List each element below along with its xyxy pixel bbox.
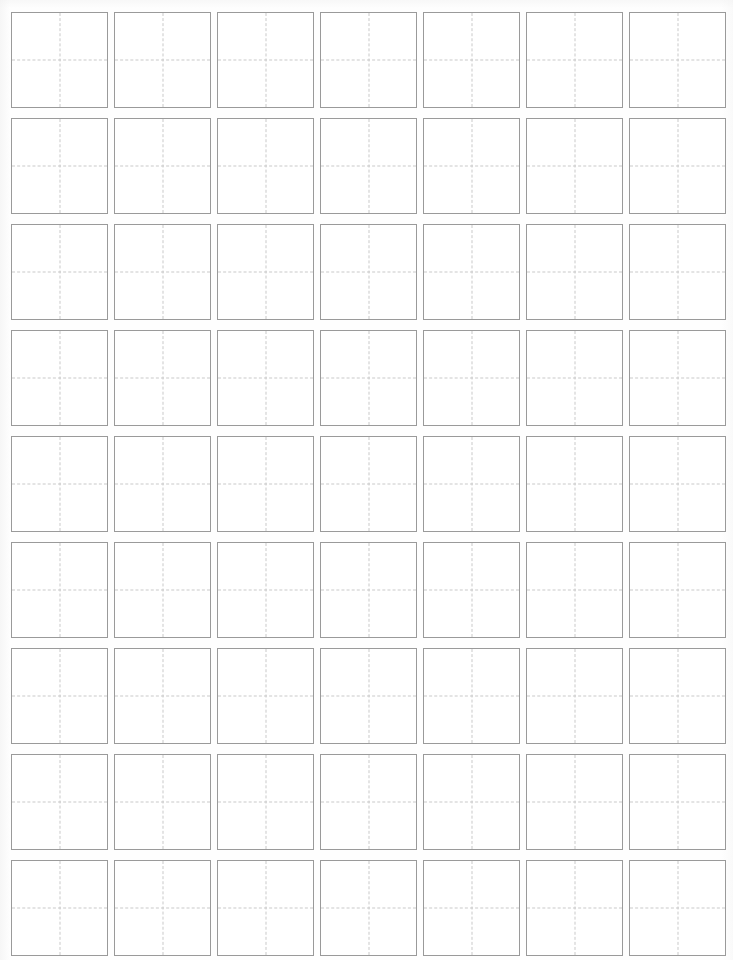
practice-cell[interactable]	[629, 542, 726, 638]
cell-character	[630, 119, 725, 213]
cell-character	[218, 331, 313, 425]
practice-cell[interactable]	[217, 330, 314, 426]
practice-cell[interactable]	[526, 118, 623, 214]
practice-cell[interactable]	[11, 436, 108, 532]
practice-cell[interactable]	[423, 860, 520, 956]
practice-cell[interactable]	[11, 330, 108, 426]
practice-cell[interactable]	[423, 542, 520, 638]
cell-character	[218, 437, 313, 531]
practice-cell[interactable]	[423, 12, 520, 108]
cell-character	[424, 13, 519, 107]
cell-character	[115, 755, 210, 849]
practice-cell[interactable]	[217, 12, 314, 108]
practice-cell[interactable]	[217, 860, 314, 956]
practice-cell[interactable]	[320, 118, 417, 214]
practice-cell[interactable]	[526, 542, 623, 638]
practice-cell[interactable]	[114, 118, 211, 214]
practice-cell[interactable]	[629, 330, 726, 426]
practice-cell[interactable]	[423, 224, 520, 320]
practice-cell[interactable]	[114, 754, 211, 850]
cell-character	[12, 331, 107, 425]
practice-cell[interactable]	[11, 118, 108, 214]
cell-character	[527, 225, 622, 319]
cell-character	[321, 543, 416, 637]
practice-cell[interactable]	[320, 648, 417, 744]
cell-character	[321, 119, 416, 213]
cell-character	[630, 861, 725, 955]
practice-cell[interactable]	[217, 436, 314, 532]
cell-character	[424, 119, 519, 213]
practice-cell[interactable]	[320, 436, 417, 532]
practice-cell[interactable]	[423, 330, 520, 426]
practice-cell[interactable]	[114, 542, 211, 638]
cell-character	[321, 331, 416, 425]
cell-character	[218, 225, 313, 319]
cell-character	[218, 119, 313, 213]
cell-character	[527, 437, 622, 531]
practice-cell[interactable]	[526, 224, 623, 320]
practice-cell[interactable]	[11, 648, 108, 744]
practice-cell[interactable]	[114, 12, 211, 108]
cell-character	[424, 649, 519, 743]
practice-cell[interactable]	[526, 860, 623, 956]
cell-character	[115, 649, 210, 743]
practice-cell[interactable]	[629, 12, 726, 108]
cell-character	[527, 543, 622, 637]
practice-cell[interactable]	[11, 224, 108, 320]
cell-character	[321, 437, 416, 531]
practice-cell[interactable]	[526, 436, 623, 532]
practice-cell[interactable]	[629, 436, 726, 532]
cell-character	[424, 861, 519, 955]
cell-character	[630, 649, 725, 743]
practice-cell[interactable]	[11, 12, 108, 108]
cell-character	[218, 755, 313, 849]
practice-cell[interactable]	[217, 754, 314, 850]
cell-character	[424, 755, 519, 849]
cell-character	[12, 543, 107, 637]
cell-character	[218, 543, 313, 637]
cell-character	[424, 543, 519, 637]
practice-cell[interactable]	[114, 224, 211, 320]
practice-cell[interactable]	[629, 860, 726, 956]
practice-cell[interactable]	[114, 648, 211, 744]
practice-cell[interactable]	[526, 330, 623, 426]
practice-cell[interactable]	[629, 648, 726, 744]
practice-cell[interactable]	[423, 754, 520, 850]
cell-character	[321, 225, 416, 319]
cell-character	[527, 861, 622, 955]
practice-cell[interactable]	[217, 118, 314, 214]
practice-cell[interactable]	[217, 542, 314, 638]
cell-character	[12, 649, 107, 743]
practice-cell[interactable]	[423, 648, 520, 744]
practice-cell[interactable]	[423, 118, 520, 214]
cell-character	[321, 861, 416, 955]
practice-cell[interactable]	[320, 754, 417, 850]
practice-cell[interactable]	[114, 436, 211, 532]
practice-cell[interactable]	[11, 754, 108, 850]
cell-character	[630, 13, 725, 107]
character-practice-grid	[11, 12, 726, 956]
practice-cell[interactable]	[629, 754, 726, 850]
practice-cell[interactable]	[217, 648, 314, 744]
cell-character	[424, 225, 519, 319]
practice-cell[interactable]	[320, 330, 417, 426]
practice-cell[interactable]	[320, 224, 417, 320]
practice-cell[interactable]	[217, 224, 314, 320]
practice-cell[interactable]	[320, 542, 417, 638]
practice-cell[interactable]	[320, 12, 417, 108]
cell-character	[218, 13, 313, 107]
cell-character	[115, 861, 210, 955]
practice-cell[interactable]	[526, 754, 623, 850]
practice-cell[interactable]	[11, 542, 108, 638]
practice-cell[interactable]	[526, 648, 623, 744]
practice-cell[interactable]	[629, 224, 726, 320]
practice-cell[interactable]	[114, 330, 211, 426]
practice-cell[interactable]	[526, 12, 623, 108]
cell-character	[630, 543, 725, 637]
practice-cell[interactable]	[629, 118, 726, 214]
cell-character	[424, 437, 519, 531]
practice-cell[interactable]	[114, 860, 211, 956]
practice-cell[interactable]	[423, 436, 520, 532]
practice-cell[interactable]	[11, 860, 108, 956]
practice-cell[interactable]	[320, 860, 417, 956]
